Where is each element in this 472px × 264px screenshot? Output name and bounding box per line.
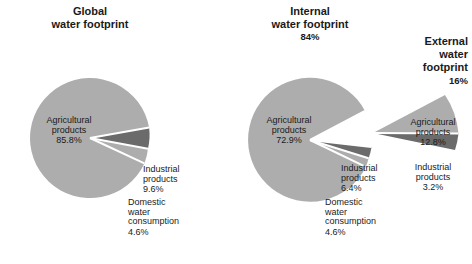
external-label-industrial: Industrial products	[394, 163, 472, 182]
global-label-industrial: Industrial products	[143, 165, 213, 184]
global-value-industrial: 9.6%	[143, 185, 213, 195]
global-value-domestic: 4.6%	[128, 228, 210, 238]
internal-chart-title-line1: Internal	[250, 6, 370, 18]
internal-value-domestic: 4.6%	[325, 228, 407, 238]
global-label-domestic: Domestic water consumption	[128, 198, 210, 227]
external-chart-title-pct: 16%	[380, 76, 468, 86]
global-chart-title-line2: water footprint	[30, 19, 150, 31]
external-value-agricultural: 12.8%	[394, 138, 472, 148]
global-label-agricultural: Agricultural products	[30, 116, 108, 135]
external-chart-title-line2: water	[380, 49, 468, 61]
global-chart-title-line1: Global	[30, 6, 150, 18]
internal-value-agricultural: 72.9%	[250, 136, 328, 146]
internal-label-agricultural: Agricultural products	[250, 116, 328, 135]
internal-chart-title-line2: water footprint	[250, 19, 370, 31]
external-chart-title-line3: footprint	[380, 62, 468, 74]
external-label-agricultural: Agricultural products	[394, 118, 472, 137]
figure-canvas: Global water footprint Agricultural prod…	[0, 0, 472, 264]
internal-chart-title-pct: 84%	[250, 32, 370, 42]
external-value-industrial: 3.2%	[394, 183, 472, 193]
global-value-agricultural: 85.8%	[30, 136, 108, 146]
external-chart-title-line1: External	[380, 36, 468, 48]
internal-label-domestic: Domestic water consumption	[325, 198, 407, 227]
